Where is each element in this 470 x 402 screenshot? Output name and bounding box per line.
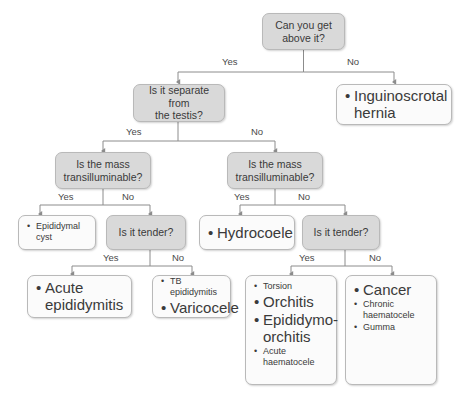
edge-label-translum-left-yes: Yes — [58, 191, 74, 202]
edge-label-tender-left-yes: Yes — [103, 252, 119, 263]
outcome-item: Varicocele — [161, 299, 224, 316]
edge-label-translum-right-yes: Yes — [234, 191, 250, 202]
outcome-list: Torsion Orchitis Epididymo-orchitis Acut… — [246, 281, 336, 369]
outcome-item: Torsion — [254, 281, 330, 292]
node-is-mass-transilluminable-left[interactable]: Is the mass transilluminable? — [55, 152, 151, 189]
edge-label-separate-no: No — [251, 126, 263, 137]
node-label-line1: Is it separate from — [134, 84, 224, 109]
node-cancer-group[interactable]: Cancer Chronic haematocele Gumma — [345, 275, 437, 385]
node-label-line2: above it? — [277, 32, 330, 45]
node-can-you-get-above-it[interactable]: Can you get above it? — [262, 13, 345, 50]
edge-label-tender-right-no: No — [369, 252, 381, 263]
node-is-it-tender-right[interactable]: Is it tender? — [302, 215, 380, 250]
node-label-line1: Is the mass — [71, 158, 135, 171]
node-label-line1: Can you get — [270, 19, 337, 32]
outcome-item: TB epididymitis — [161, 276, 224, 298]
outcome-item: Acute haematocele — [254, 346, 330, 368]
edge-label-translum-left-no: No — [122, 191, 134, 202]
edge-label-tender-left-no: No — [172, 252, 184, 263]
outcome-item: Epididymal cyst — [27, 221, 89, 243]
outcome-item: Gumma — [354, 322, 430, 333]
node-label-line2: transilluminable? — [59, 171, 148, 184]
node-is-it-separate-from-testis[interactable]: Is it separate from the testis? — [133, 84, 225, 122]
edge-label-translum-right-no: No — [298, 191, 310, 202]
outcome-list: Hydrocoele — [200, 224, 294, 242]
node-label-line2: the testis? — [150, 109, 208, 122]
node-acute-epididymitis[interactable]: Acute epididymitis — [27, 275, 132, 318]
edge-label-above-yes: Yes — [222, 56, 238, 67]
node-epididymal-cyst[interactable]: Epididymal cyst — [18, 215, 96, 250]
node-torsion-orchitis-group[interactable]: Torsion Orchitis Epididymo-orchitis Acut… — [245, 275, 337, 385]
node-label-line2: transilluminable? — [231, 171, 320, 184]
node-tb-epididymitis-varicocele[interactable]: TB epididymitis Varicocele — [152, 275, 231, 318]
outcome-item: Hydrocoele — [208, 224, 288, 241]
edge-label-tender-right-yes: Yes — [299, 252, 315, 263]
outcome-list: Cancer Chronic haematocele Gumma — [346, 281, 436, 334]
edge-label-above-no: No — [347, 56, 359, 67]
outcome-list: Acute epididymitis — [28, 279, 131, 314]
outcome-item: Chronic haematocele — [354, 299, 430, 321]
node-hydrocoele[interactable]: Hydrocoele — [199, 215, 295, 250]
node-inguinoscrotal-hernia[interactable]: Inguinoscrotal hernia — [336, 84, 452, 125]
node-label-line1: Is the mass — [243, 158, 307, 171]
node-is-mass-transilluminable-right[interactable]: Is the mass transilluminable? — [227, 152, 323, 189]
outcome-list: TB epididymitis Varicocele — [153, 276, 230, 317]
node-is-it-tender-left[interactable]: Is it tender? — [106, 215, 186, 250]
outcome-item: Acute epididymitis — [36, 279, 125, 313]
outcome-item: Cancer — [354, 281, 430, 298]
edge-label-separate-yes: Yes — [126, 126, 142, 137]
node-label-line1: Is it tender? — [114, 226, 179, 239]
outcome-item: Orchitis — [254, 293, 330, 310]
node-label-line1: Is it tender? — [309, 226, 374, 239]
flowchart-canvas: Can you get above it? Yes No Is it separ… — [0, 0, 470, 402]
outcome-item: Epididymo-orchitis — [254, 311, 330, 345]
outcome-list: Epididymal cyst — [19, 221, 95, 244]
outcome-item: Inguinoscrotal hernia — [345, 87, 445, 121]
outcome-list: Inguinoscrotal hernia — [337, 87, 451, 122]
